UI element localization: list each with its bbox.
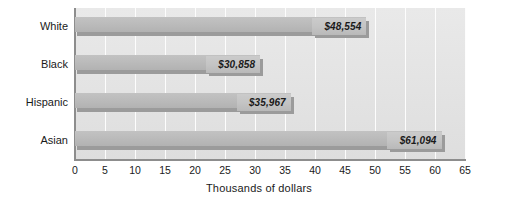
value-label-text: $61,094 [400, 135, 437, 146]
gridline [465, 8, 466, 160]
x-tick-label: 5 [90, 164, 120, 176]
x-tick-label: 40 [300, 164, 330, 176]
x-tick-label: 0 [60, 164, 90, 176]
category-label-black: Black [0, 58, 68, 70]
category-label-hispanic: Hispanic [0, 96, 68, 108]
bar-row: $35,967 [75, 84, 465, 122]
value-label-text: $48,554 [324, 21, 361, 32]
bar-row: $61,094 [75, 122, 465, 160]
x-tick-label: 10 [120, 164, 150, 176]
value-label-white: $48,554 [312, 18, 366, 35]
value-label-text: $35,967 [249, 97, 286, 108]
value-label-text: $30,858 [218, 59, 255, 70]
bar-black[interactable]: $30,858 [75, 55, 260, 74]
x-tick-label: 55 [390, 164, 420, 176]
bar-row: $48,554 [75, 8, 465, 46]
bar-white[interactable]: $48,554 [75, 17, 366, 36]
x-tick-label: 45 [330, 164, 360, 176]
value-label-black: $30,858 [206, 56, 260, 73]
bar-asian[interactable]: $61,094 [75, 131, 442, 150]
x-tick-label: 30 [240, 164, 270, 176]
x-tick-label: 15 [150, 164, 180, 176]
x-tick-label: 65 [450, 164, 480, 176]
x-tick-label: 25 [210, 164, 240, 176]
bar-row: $30,858 [75, 46, 465, 84]
category-label-white: White [0, 20, 68, 32]
x-tick-label: 60 [420, 164, 450, 176]
x-axis-title: Thousands of dollars [0, 182, 518, 194]
value-label-asian: $61,094 [387, 132, 441, 149]
value-label-hispanic: $35,967 [237, 94, 291, 111]
x-tick-label: 20 [180, 164, 210, 176]
category-label-asian: Asian [0, 134, 68, 146]
bar-chart-figure: $48,554$30,858$35,967$61,094 WhiteBlackH… [0, 0, 518, 206]
bar-hispanic[interactable]: $35,967 [75, 93, 291, 112]
x-tick-label: 50 [360, 164, 390, 176]
x-tick-label: 35 [270, 164, 300, 176]
